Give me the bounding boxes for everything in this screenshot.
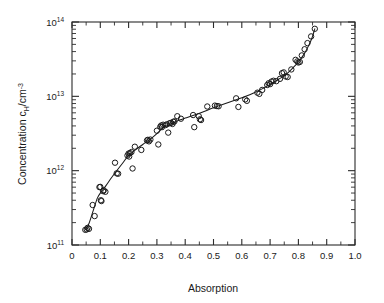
x-tick-label: 0.3 (150, 250, 163, 261)
x-tick-label: 0.5 (207, 250, 220, 261)
scatter-plot: 00.10.20.30.40.50.60.70.80.91.0 10111012… (0, 0, 384, 303)
x-tick-label: 0 (69, 250, 74, 261)
x-tick-label: 1.0 (348, 250, 361, 261)
x-tick-label: 0.8 (292, 250, 305, 261)
x-tick-label: 0.2 (122, 250, 135, 261)
figure-container: 00.10.20.30.40.50.60.70.80.91.0 10111012… (0, 0, 384, 303)
x-axis-title: Absorption (188, 282, 238, 294)
x-tick-label: 0.7 (263, 250, 276, 261)
y-axis-title: Concentration cH/cm-3 (16, 83, 30, 185)
x-tick-label: 0.1 (94, 250, 107, 261)
x-tick-label: 0.6 (235, 250, 248, 261)
y-axis-title-group: Concentration cH/cm-3 (16, 83, 30, 185)
x-tick-label: 0.4 (179, 250, 192, 261)
x-tick-label: 0.9 (320, 250, 333, 261)
